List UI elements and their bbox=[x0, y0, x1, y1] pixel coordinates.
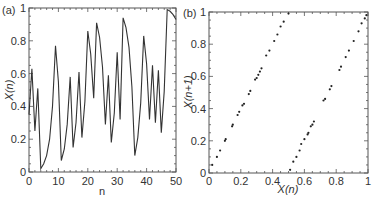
panel-b-frame bbox=[209, 12, 368, 173]
y-tick-label: 0.2 bbox=[191, 135, 206, 147]
panel-b-label: (b) bbox=[183, 7, 196, 19]
data-point bbox=[340, 66, 342, 68]
data-point bbox=[256, 77, 258, 79]
panel-a-data-line bbox=[29, 10, 176, 169]
data-point bbox=[365, 14, 367, 16]
data-point bbox=[357, 30, 359, 32]
data-point bbox=[329, 88, 331, 90]
data-point bbox=[364, 17, 366, 19]
figure: (a) 0102030405000.20.40.60.81 n X(n) (b)… bbox=[0, 0, 374, 202]
data-point bbox=[313, 120, 315, 122]
data-point bbox=[300, 143, 302, 145]
data-point bbox=[280, 25, 282, 27]
data-point bbox=[303, 138, 305, 140]
panel-b-ylabel: X(n+1) bbox=[182, 75, 194, 110]
data-point bbox=[307, 132, 309, 134]
panel-b-ticks bbox=[209, 12, 368, 173]
data-point bbox=[287, 13, 289, 15]
data-point bbox=[273, 40, 275, 42]
data-point bbox=[238, 111, 240, 113]
data-point bbox=[361, 22, 363, 24]
panel-a-xlabel: n bbox=[99, 185, 105, 197]
x-tick-label: 10 bbox=[52, 175, 64, 187]
x-tick-label: 50 bbox=[170, 175, 182, 187]
data-point bbox=[249, 90, 251, 92]
data-point bbox=[338, 69, 340, 71]
data-point bbox=[243, 103, 245, 105]
y-tick-label: 0.2 bbox=[11, 133, 26, 145]
x-tick-label: 0 bbox=[26, 175, 32, 187]
x-tick-label: 0.6 bbox=[297, 175, 312, 187]
y-tick-label: 1 bbox=[200, 6, 206, 18]
data-point bbox=[330, 85, 332, 87]
x-tick-label: 20 bbox=[82, 175, 94, 187]
data-point bbox=[241, 104, 243, 106]
x-tick-label: 0.2 bbox=[233, 175, 248, 187]
panel-b-return-map: (b) 00.20.40.60.8100.20.40.60.81 X(n) X(… bbox=[182, 6, 371, 195]
data-point bbox=[322, 99, 324, 101]
data-point bbox=[232, 124, 234, 126]
x-tick-label: 0.8 bbox=[329, 175, 344, 187]
panel-a-label: (a) bbox=[2, 4, 15, 16]
data-point bbox=[299, 149, 301, 151]
x-tick-label: 40 bbox=[140, 175, 152, 187]
data-point bbox=[237, 114, 239, 116]
data-point bbox=[348, 50, 350, 52]
data-point bbox=[345, 56, 347, 58]
y-tick-label: 0.8 bbox=[191, 38, 206, 50]
data-point bbox=[254, 79, 256, 81]
data-point bbox=[248, 93, 250, 95]
data-point bbox=[211, 164, 213, 166]
x-tick-label: 30 bbox=[111, 175, 123, 187]
data-point bbox=[225, 138, 227, 140]
data-point bbox=[295, 156, 297, 158]
data-point bbox=[276, 33, 278, 35]
data-point bbox=[292, 161, 294, 163]
data-point bbox=[289, 169, 291, 171]
y-tick-label: 0.8 bbox=[11, 35, 26, 47]
panel-b-tick-labels: 00.20.40.60.8100.20.40.60.81 bbox=[191, 6, 371, 187]
data-point bbox=[265, 54, 267, 56]
panel-a-ylabel: X(n) bbox=[3, 79, 15, 101]
panel-b-xlabel: X(n) bbox=[277, 183, 299, 195]
panel-a-time-series: (a) 0102030405000.20.40.60.81 n X(n) bbox=[2, 2, 182, 197]
y-tick-label: 0.6 bbox=[11, 68, 26, 80]
data-point bbox=[268, 50, 270, 52]
data-point bbox=[283, 21, 285, 23]
x-tick-label: 1 bbox=[365, 175, 371, 187]
y-tick-label: 0.4 bbox=[11, 100, 26, 112]
data-point bbox=[353, 40, 355, 42]
y-tick-label: 0 bbox=[20, 166, 26, 178]
data-point bbox=[324, 98, 326, 100]
data-point bbox=[310, 125, 312, 127]
x-tick-label: 0 bbox=[206, 175, 212, 187]
data-point bbox=[259, 71, 261, 73]
y-tick-label: 0 bbox=[200, 167, 206, 179]
data-point bbox=[257, 74, 259, 76]
y-tick-label: 1 bbox=[20, 2, 26, 14]
data-point bbox=[260, 67, 262, 69]
panel-b-scatter-points bbox=[211, 13, 367, 171]
data-point bbox=[311, 124, 313, 126]
data-point bbox=[219, 149, 221, 151]
data-point bbox=[216, 156, 218, 158]
